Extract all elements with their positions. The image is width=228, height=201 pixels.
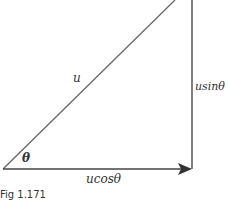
hypotenuse-label: u [73, 71, 81, 85]
vertical-label: usinθ [195, 80, 225, 93]
hypotenuse-line [3, 0, 175, 169]
horizontal-label: ucosθ [86, 172, 121, 186]
triangle-diagram [0, 0, 228, 201]
angle-label: θ [22, 151, 30, 165]
figure-caption: Fig 1.171 [0, 189, 46, 200]
